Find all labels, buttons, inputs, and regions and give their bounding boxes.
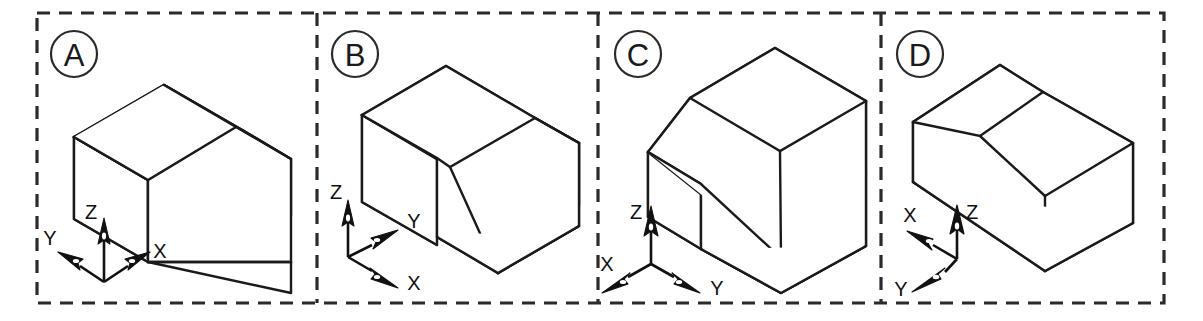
axis-d-z-label: Z xyxy=(966,201,978,223)
solid-a xyxy=(74,85,291,293)
axis-c-x-label: X xyxy=(600,253,613,275)
axis-a-z-label: Z xyxy=(85,201,97,223)
panel-label-a-badge: A xyxy=(51,31,97,77)
axis-c-x-shaft xyxy=(628,264,651,277)
axis-d-z-arrowhead-hole xyxy=(955,222,959,229)
axis-b-z-arrowhead xyxy=(342,200,354,226)
axis-d-y-label: Y xyxy=(894,278,907,300)
axis-a-x-shaft xyxy=(104,266,128,282)
panel-label-b-badge: B xyxy=(332,31,378,77)
axis-c-x-arrowhead-hole xyxy=(620,280,626,284)
axis-d-y-arrowhead xyxy=(912,268,945,292)
axis-b-x-shaft xyxy=(348,257,372,271)
axis-b-z-arrowhead-hole xyxy=(346,215,350,222)
axis-d-y-arrowhead-hole xyxy=(933,275,940,279)
figure-container: A xyxy=(0,0,1203,321)
solid-b xyxy=(362,66,579,273)
axis-a-y-shaft xyxy=(80,266,104,282)
panel-label-d-badge: D xyxy=(897,31,943,77)
axis-c-z-arrowhead-hole xyxy=(649,223,653,230)
axis-d-x-shaft xyxy=(933,245,957,259)
axis-a-y-label: Y xyxy=(43,227,56,249)
axis-d-x-label: X xyxy=(903,204,916,226)
solid-c-edge-chamfer-fold xyxy=(780,151,781,258)
axis-a-y-arrowhead-hole xyxy=(73,259,79,263)
axis-b-x-arrowhead-hole xyxy=(374,275,380,279)
panel-b: B Z xyxy=(330,31,579,294)
axis-b-y-label: Y xyxy=(407,210,420,232)
axis-b-x-label: X xyxy=(407,272,420,294)
axis-a-x-arrowhead-hole xyxy=(129,259,135,263)
axis-triad-d: Z X Y xyxy=(894,201,978,300)
panel-label-d-letter: D xyxy=(909,38,931,73)
panel-label-c-badge: C xyxy=(615,31,661,77)
solid-d xyxy=(913,65,1133,271)
panel-label-c-letter: C xyxy=(627,38,649,73)
axis-d-x-arrowhead-hole xyxy=(926,239,932,243)
axis-c-y-shaft xyxy=(651,264,674,277)
panel-a: A xyxy=(43,31,291,293)
axis-d-y-shaft xyxy=(945,259,957,272)
axis-a-y-arrowhead xyxy=(58,252,83,270)
solid-c xyxy=(648,48,866,293)
axis-b-z-label: Z xyxy=(330,181,342,203)
axis-c-z-label: Z xyxy=(630,201,642,223)
panel-c: C Z xyxy=(600,31,866,299)
axis-c-y-arrowhead-hole xyxy=(676,280,682,284)
axis-a-x-label: X xyxy=(153,240,166,262)
panel-d: D Z xyxy=(894,31,1133,300)
panel-label-a-letter: A xyxy=(64,38,85,73)
axis-c-y-label: Y xyxy=(710,277,723,299)
panel-label-b-letter: B xyxy=(345,38,366,73)
axis-a-z-arrowhead-hole xyxy=(102,233,106,240)
axis-b-y-arrowhead-hole xyxy=(374,238,380,242)
axis-b-y-shaft xyxy=(348,245,372,257)
solid-c-edge-bottom-front xyxy=(701,246,866,293)
